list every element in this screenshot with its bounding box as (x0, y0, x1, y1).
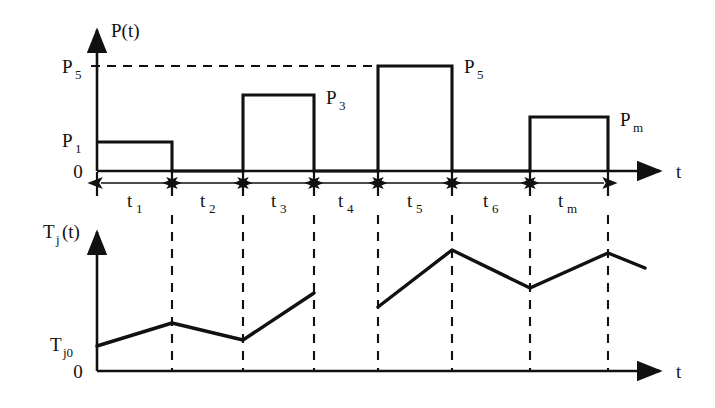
interval-label-t5-subscript: 5 (416, 201, 423, 216)
interval-label-t4-subscript: 4 (347, 201, 354, 216)
interval-label-t1-subscript: 1 (136, 201, 143, 216)
pulse-label-pm-subscript: m (633, 120, 643, 135)
timing-diagram-figure: P(t) t 0 P 5 P 1 P 3 P 5 P m (0, 0, 715, 408)
ytick-p5-base: P (62, 56, 73, 77)
ytick-p1-subscript: 1 (75, 141, 82, 156)
bottom-chart-x-axis-label: t (676, 361, 682, 382)
pulse-label-p3-base: P (326, 87, 337, 108)
interval-label-t3-subscript: 3 (280, 201, 287, 216)
figure-background (0, 0, 715, 408)
y-axis-label-of-t: (t) (62, 221, 80, 243)
interval-label-t2-base: t (200, 190, 206, 211)
interval-label-t5-base: t (407, 190, 413, 211)
ytick-tj0-base: T (50, 334, 62, 355)
top-chart-y-axis-label: P(t) (111, 20, 140, 42)
pulse-label-pm-base: P (620, 109, 631, 130)
pulse-label-p5-subscript: 5 (477, 67, 484, 82)
y-axis-label-j-subscript: j (55, 232, 60, 247)
interval-label-t1-base: t (127, 190, 133, 211)
top-chart-origin-label: 0 (73, 161, 83, 182)
interval-label-t2-subscript: 2 (209, 201, 216, 216)
interval-label-tm-subscript: m (567, 201, 577, 216)
bottom-chart-origin-label: 0 (73, 361, 83, 382)
interval-label-t6-base: t (483, 190, 489, 211)
interval-label-t6-subscript: 6 (492, 201, 499, 216)
top-chart-x-axis-label: t (676, 161, 682, 182)
pulse-label-p3-subscript: 3 (339, 98, 346, 113)
diagram-canvas: P(t) t 0 P 5 P 1 P 3 P 5 P m (0, 0, 715, 408)
pulse-label-p5-base: P (464, 56, 475, 77)
ytick-tj0-subscript: j0 (62, 345, 73, 360)
interval-label-t4-base: t (338, 190, 344, 211)
ytick-p5-subscript: 5 (75, 67, 82, 82)
ytick-p1-base: P (62, 130, 73, 151)
y-axis-label-T: T (43, 221, 55, 242)
interval-label-tm-base: t (558, 190, 564, 211)
interval-label-t3-base: t (271, 190, 277, 211)
